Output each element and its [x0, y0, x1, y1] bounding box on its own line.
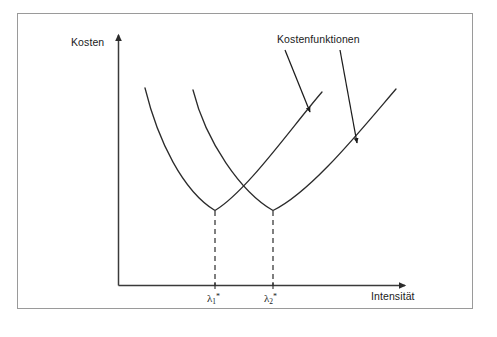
lambda-superscript: *: [273, 292, 277, 301]
x-tick-label-lambda-2: λ2*: [264, 292, 277, 306]
lambda-superscript: *: [216, 292, 220, 301]
annotation-arrow-2: [340, 50, 357, 143]
x-axis-label: Intensität: [371, 290, 415, 302]
y-axis-label: Kosten: [71, 36, 104, 48]
cost-curve-2: [193, 89, 396, 211]
kostenfunktionen-annotation-label: Kostenfunktionen: [277, 33, 360, 45]
diagram-canvas: Kosten Intensität Kostenfunktionen λ1* λ…: [0, 0, 497, 337]
plot-svg: [0, 0, 497, 337]
cost-curve-1: [145, 88, 322, 211]
annotation-arrow-1: [285, 50, 310, 112]
x-tick-label-lambda-1: λ1*: [207, 292, 220, 306]
